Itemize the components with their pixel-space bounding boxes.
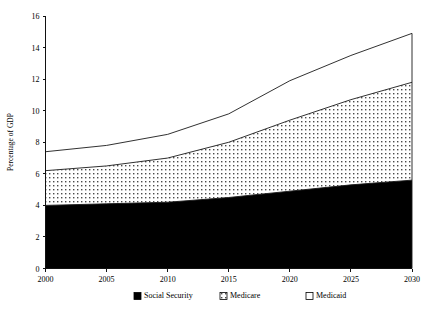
x-tick-label: 2025 bbox=[343, 275, 359, 284]
y-tick-label: 8 bbox=[36, 138, 40, 147]
x-tick-label: 2020 bbox=[282, 275, 298, 284]
y-tick-label: 4 bbox=[36, 201, 40, 210]
x-tick-label: 2000 bbox=[38, 275, 54, 284]
legend-swatch-social-security bbox=[134, 293, 141, 300]
x-tick-label: 2010 bbox=[160, 275, 176, 284]
y-tick-label: 0 bbox=[36, 265, 40, 274]
y-tick-label: 14 bbox=[32, 44, 40, 53]
legend-label-medicare: Medicare bbox=[230, 291, 261, 300]
chart-figure: 0246810121416 20002005201020152020202520… bbox=[0, 0, 433, 312]
legend-label-social-security: Social Security bbox=[144, 291, 193, 300]
stacked-area-chart: 0246810121416 20002005201020152020202520… bbox=[0, 0, 433, 312]
x-tick-label: 2015 bbox=[221, 275, 237, 284]
y-tick-label: 6 bbox=[36, 170, 40, 179]
y-axis-title: Percentage of GDP bbox=[6, 113, 15, 171]
y-tick-label: 16 bbox=[32, 12, 40, 21]
y-tick-label: 12 bbox=[32, 75, 40, 84]
legend-label-medicaid: Medicaid bbox=[316, 291, 346, 300]
legend-swatch-medicare bbox=[220, 293, 227, 300]
y-tick-label: 2 bbox=[36, 233, 40, 242]
x-tick-label: 2030 bbox=[404, 275, 420, 284]
legend-swatch-medicaid bbox=[306, 293, 313, 300]
y-tick-label: 10 bbox=[32, 107, 40, 116]
x-tick-label: 2005 bbox=[99, 275, 115, 284]
